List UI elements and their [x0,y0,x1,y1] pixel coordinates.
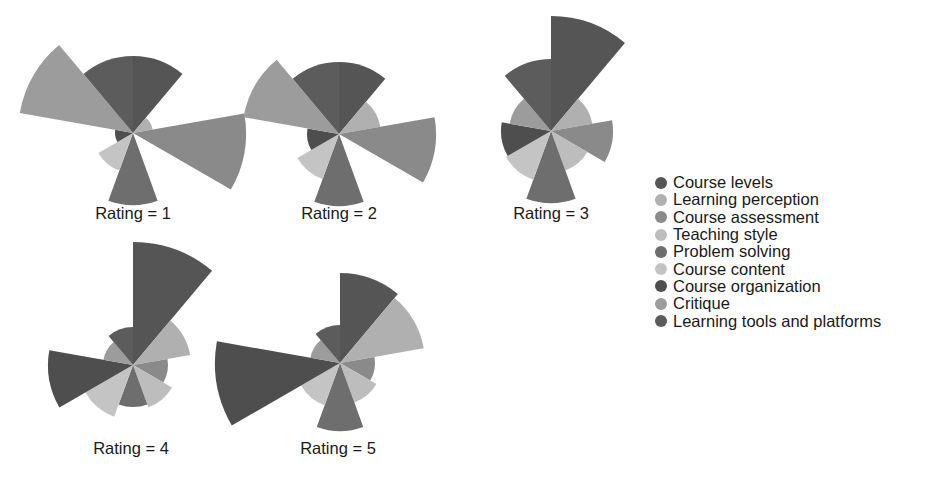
legend-label: Teaching style [673,226,778,243]
legend-item-course-levels: Course levels [655,174,881,191]
legend-item-course-assessment: Course assessment [655,209,881,226]
legend-label: Course assessment [673,209,819,226]
legend-item-learning-tools-and-platforms: Learning tools and platforms [655,312,881,329]
legend-dot-icon [655,194,667,206]
panel-rating-2 [243,60,436,206]
panel-title-rating-5: Rating = 5 [300,439,376,458]
legend-item-learning-perception: Learning perception [655,191,881,208]
legend-label: Course content [673,261,785,278]
legend-dot-icon [655,315,667,327]
legend-dot-icon [655,280,667,292]
panel-title-rating-4: Rating = 4 [93,439,169,458]
legend-label: Learning perception [673,191,819,208]
panel-title-rating-1: Rating = 1 [95,204,171,223]
panel-rating-5 [215,273,424,431]
legend-dot-icon [655,211,667,223]
legend-item-problem-solving: Problem solving [655,243,881,260]
legend-dot-icon [655,263,667,275]
legend-item-course-organization: Course organization [655,278,881,295]
legend-label: Learning tools and platforms [673,313,881,330]
panel-rating-1 [20,45,246,205]
legend-dot-icon [655,177,667,189]
legend-label: Course organization [673,278,821,295]
legend-label: Problem solving [673,243,790,260]
panel-title-rating-3: Rating = 3 [513,204,589,223]
legend: Course levels Learning perception Course… [655,174,881,330]
legend-dot-icon [655,246,667,258]
legend-dot-icon [655,229,667,241]
panel-rating-4 [48,242,212,417]
legend-item-critique: Critique [655,295,881,312]
panel-title-rating-2: Rating = 2 [301,204,377,223]
legend-item-teaching-style: Teaching style [655,226,881,243]
legend-dot-icon [655,298,667,310]
wedge-course-levels [133,56,182,133]
legend-label: Critique [673,295,730,312]
panel-rating-3 [501,16,625,203]
legend-item-course-content: Course content [655,260,881,277]
legend-label: Course levels [673,174,773,191]
